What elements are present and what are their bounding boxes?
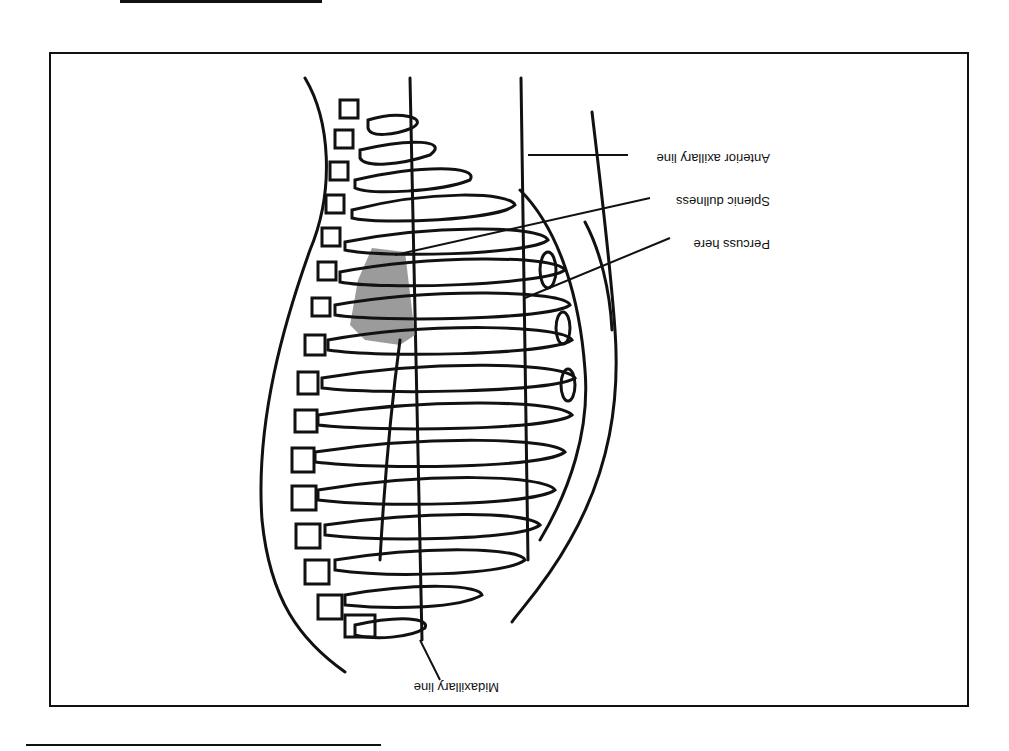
midaxillary-leader [420,640,440,680]
midaxillary-line [410,78,422,640]
percuss-here-label: Percuss here [693,237,770,252]
splenic-dullness-label: Splenic dullness [676,194,770,209]
anterior-axillary-line [521,78,528,560]
anterior-axillary-line-label: Anterior axillary line [657,151,770,166]
midaxillary-line-label: Midaxillary line [414,680,499,695]
rib-cage-diagram: Anterior axillary line Splenic dullness … [0,0,1009,751]
